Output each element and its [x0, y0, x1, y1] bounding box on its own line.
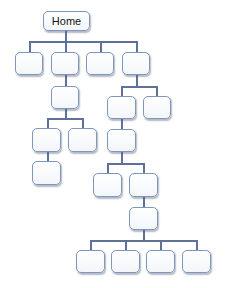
node-leaf-3[interactable]: [146, 250, 175, 273]
connector-level1-bar: [29, 41, 137, 43]
node-leaf-1[interactable]: [76, 250, 105, 273]
node-home-label: Home: [52, 15, 81, 27]
node-level1-3[interactable]: [86, 52, 114, 75]
node-home[interactable]: Home: [43, 11, 90, 31]
node-n2a1a[interactable]: [32, 161, 61, 185]
node-n2a1[interactable]: [32, 128, 61, 152]
connector-to-n2a1: [47, 118, 49, 128]
connector-n4-bar: [121, 86, 157, 88]
node-n2a2[interactable]: [68, 128, 97, 152]
node-leaf-2[interactable]: [111, 250, 140, 273]
connector-n2a1-down: [47, 152, 49, 161]
connector-to-n4: [136, 41, 138, 52]
connector-n4a1b1-down: [143, 230, 145, 240]
node-n4a[interactable]: [107, 96, 136, 119]
sitemap-diagram: Home: [0, 0, 225, 288]
connector-to-leaf4: [196, 240, 198, 250]
node-level1-1[interactable]: [15, 52, 43, 75]
connector-to-n1: [29, 41, 31, 52]
connector-n4a-down: [121, 119, 123, 129]
connector-n2a-bar: [47, 118, 83, 120]
connector-n2-down: [65, 75, 67, 86]
connector-to-n4b: [156, 86, 158, 96]
node-n4a1[interactable]: [107, 129, 136, 152]
node-level1-4[interactable]: [122, 52, 150, 75]
node-leaf-4[interactable]: [182, 250, 211, 273]
connector-to-n4a: [121, 86, 123, 96]
connector-to-leaf1: [90, 240, 92, 250]
connector-home-down: [65, 31, 67, 41]
connector-to-leaf2: [125, 240, 127, 250]
node-n2a[interactable]: [51, 86, 79, 109]
connector-n4-down: [136, 75, 138, 86]
node-level1-2[interactable]: [51, 52, 79, 75]
connector-to-n4a1a: [107, 163, 109, 173]
connector-to-leaf3: [160, 240, 162, 250]
node-n4a1a[interactable]: [93, 173, 122, 197]
connector-n2a-down: [65, 109, 67, 118]
node-n4a1b1[interactable]: [129, 207, 158, 230]
connector-n4a1-down: [121, 152, 123, 163]
connector-to-n2: [65, 41, 67, 52]
connector-to-n4a1b: [143, 163, 145, 173]
connector-to-n3: [100, 41, 102, 52]
connector-n4a1-bar: [107, 163, 144, 165]
connector-to-n2a2: [82, 118, 84, 128]
node-n4a1b[interactable]: [129, 173, 158, 197]
connector-leaf-bar: [90, 240, 197, 242]
node-n4b[interactable]: [143, 96, 171, 119]
connector-n4a1b-down: [143, 197, 145, 207]
